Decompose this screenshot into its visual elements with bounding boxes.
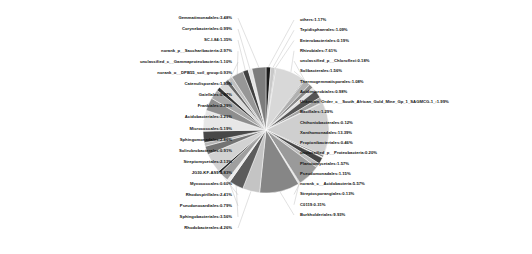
pie-slice-label: Myxococcales:0.60% (190, 182, 232, 186)
leader-line (238, 29, 250, 69)
leader-line (238, 40, 245, 70)
pie-slice-label: Rhodospirillales:2.41% (186, 193, 232, 197)
pie-slice-label: C0119:0.31% (300, 203, 326, 207)
pie-slice-label: Acidobacteriales:3.21% (185, 115, 232, 119)
pie-slice-label: Propionibacteriales:0.46% (300, 141, 353, 145)
pie-chart-svg (0, 0, 532, 254)
pie-slice-label: JG30-KF-AS9:4.83% (192, 171, 232, 175)
leader-line (273, 30, 294, 67)
pie-slice-label: Bacillales:1.29% (300, 110, 333, 114)
pie-slice-label: Streptomycetales:2.13% (183, 160, 232, 164)
pie-slice-label: Pseudomonadales:1.15% (300, 172, 351, 176)
pie-slice-label: Xanthomonadales:13.39% (300, 131, 352, 135)
leader-line (238, 18, 259, 67)
pie-slice-label: Solirubrobacterales:0.91% (179, 149, 232, 153)
pie-slice-label: Thermogemmatisporales:1.08% (300, 79, 364, 83)
leader-line (268, 20, 294, 67)
leader-line (276, 41, 294, 68)
pie-slice-label: Rhodobacterales:4.26% (184, 226, 232, 230)
pie-slice-label: Catenulisporales:1.90% (185, 82, 232, 86)
leader-line (294, 184, 299, 205)
pie-slice-label: Sphingomonadales:2.86% (180, 137, 232, 141)
pie-slice-label: Unknown_Order_c__South_African_Gold_Mine… (300, 100, 449, 104)
pie-slice-label: norank_c__Acidobacteria:5.57% (300, 182, 365, 186)
pie-slice-label: unclassified_p__Chloroflexi:0.18% (300, 59, 370, 63)
pie-slice-label: Tepidisphaerales:1.09% (300, 28, 348, 32)
pie-slice-label: Planctomycetales:1.57% (300, 162, 349, 166)
pie-slice-label: SC-I-84:1.35% (204, 38, 232, 42)
pie-chart-figure: others:1.17%Tepidisphaerales:1.09%Entero… (0, 0, 532, 254)
pie-slice-label: Corynebacteriales:0.99% (182, 27, 232, 31)
leader-line (280, 191, 294, 215)
pie-slice-label: Sphingobacteriales:3.56% (180, 215, 232, 219)
leader-line (291, 51, 294, 72)
pie-slice-label: Micrococcales:5.19% (189, 126, 232, 130)
pie-slice-label: Streptosporangiales:0.13% (300, 192, 354, 196)
pie-slice-label: Pseudonocardiales:0.79% (180, 204, 232, 208)
pie-slice-label: unclassified_p__Proteobacteria:0.20% (300, 151, 377, 155)
pie-slice-label: Solibacterales:1.56% (300, 69, 342, 73)
pie-slice-label: norank_p__Saccharibacteria:2.97% (161, 49, 232, 53)
pie-slice-label: Frankiales:2.39% (198, 104, 232, 108)
pie-slice-label: others:1.17% (300, 18, 326, 22)
pie-slice-label: Enterobacteriales:0.19% (300, 38, 349, 42)
pie-slice-label: Gaiellales:0.97% (199, 93, 232, 97)
leader-line (238, 191, 251, 228)
pie-slice-label: unclassified_c__Gammaproteobacteria:1.10… (140, 60, 232, 64)
pie-slice-label: Gemmatimonadales:3.48% (178, 16, 232, 20)
pie-slice-label: Burkholderiales:9.93% (300, 213, 345, 217)
pie-slice-label: norank_o__DPB55_soil_group:0.93% (157, 71, 232, 75)
pie-slice-label: Acidimicrobiales:0.98% (300, 90, 347, 94)
pie-slice-label: Rhizobiales:7.61% (300, 49, 337, 53)
pie-slice-label: Chthoniobacterales:0.12% (300, 121, 353, 125)
